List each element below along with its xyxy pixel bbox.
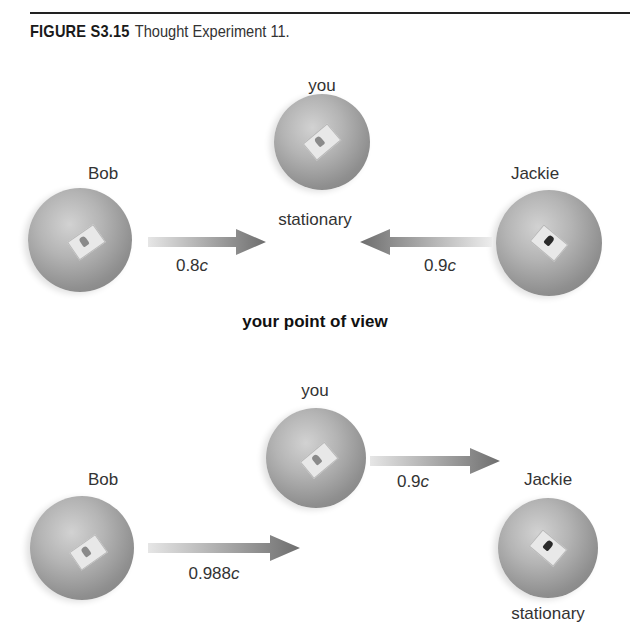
you-label-top: you (308, 76, 335, 96)
person-icon (311, 454, 323, 466)
person-icon (314, 135, 326, 147)
top-rule (30, 12, 630, 14)
spaceship-window-icon (67, 224, 106, 260)
person-icon (80, 546, 91, 558)
arrow-left-icon (360, 229, 492, 255)
jackie-status-bottom: stationary (511, 604, 585, 624)
person-icon (543, 234, 555, 246)
jackie-velocity-arrow-top (360, 229, 492, 255)
spaceship-window-icon (529, 529, 568, 566)
section-heading: your point of view (242, 312, 387, 332)
figure-number: FIGURE S3.15 (30, 22, 130, 41)
you-sphere-top (274, 94, 370, 190)
figure-title: Thought Experiment 11. (135, 22, 290, 41)
you-velocity-arrow-bottom (370, 448, 500, 474)
spaceship-window-icon (69, 534, 108, 570)
jackie-sphere-bottom (498, 498, 598, 598)
figure-caption: FIGURE S3.15Thought Experiment 11. (30, 22, 290, 42)
you-sphere-bottom (266, 408, 366, 508)
jackie-label-bottom: Jackie (524, 470, 572, 490)
spaceship-window-icon (300, 441, 339, 478)
arrow-right-icon (370, 448, 500, 474)
you-label-bottom: you (301, 381, 328, 401)
bob-sphere-bottom (30, 496, 134, 600)
person-icon (78, 235, 89, 247)
spaceship-window-icon (530, 224, 569, 261)
jackie-sphere-top (496, 190, 602, 296)
spaceship-window-icon (303, 123, 342, 160)
bob-label-bottom: Bob (88, 470, 118, 490)
arrow-right-icon (148, 229, 266, 255)
you-status-top: stationary (278, 210, 352, 230)
arrow-right-icon (148, 535, 300, 561)
bob-velocity-arrow-bottom (148, 535, 300, 561)
person-icon (542, 539, 554, 551)
bob-label-top: Bob (88, 164, 118, 184)
jackie-speed-top: 0.9c (424, 256, 456, 276)
bob-velocity-arrow-top (148, 229, 266, 255)
jackie-label-top: Jackie (511, 164, 559, 184)
bob-speed-top: 0.8c (176, 256, 208, 276)
bob-sphere-top (28, 188, 132, 292)
you-speed-bottom: 0.9c (397, 472, 429, 492)
bob-speed-bottom: 0.988c (188, 564, 239, 584)
